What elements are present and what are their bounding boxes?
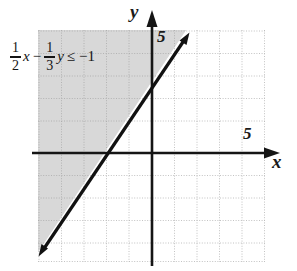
y-axis-tick-label-5: 5 xyxy=(157,28,166,45)
x-axis-tick-label-5: 5 xyxy=(243,125,252,142)
inequality-graph-figure: y x 5 5 1 2 x − 1 3 y ≤ −1 xyxy=(0,0,297,271)
inequality-annotation: 1 2 x − 1 3 y ≤ −1 xyxy=(9,41,97,73)
variable-x: x xyxy=(22,48,31,65)
fraction-one-half-numerator: 1 xyxy=(10,41,21,56)
fraction-one-third-denominator: 3 xyxy=(44,58,55,73)
fraction-one-half: 1 2 xyxy=(10,41,21,73)
y-axis-label: y xyxy=(130,2,138,21)
solution-region-shading xyxy=(38,0,297,252)
right-hand-side: −1 xyxy=(77,48,97,65)
fraction-one-third: 1 3 xyxy=(44,41,55,73)
variable-y: y xyxy=(56,48,65,65)
x-axis-label: x xyxy=(272,152,282,171)
minus-operator: − xyxy=(31,48,43,65)
fraction-one-half-denominator: 2 xyxy=(10,58,21,73)
relation-symbol: ≤ xyxy=(65,48,77,65)
fraction-one-third-numerator: 1 xyxy=(44,41,55,56)
